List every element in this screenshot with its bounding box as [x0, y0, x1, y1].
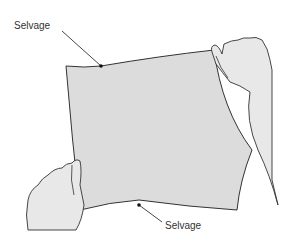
top-selvage-leader: [62, 31, 101, 66]
bottom-selvage-dot: [137, 203, 141, 207]
bottom-selvage-label: Selvage: [165, 220, 201, 231]
left-hand-icon: [27, 160, 85, 230]
selvage-diagram: Selvage Selvage: [0, 0, 305, 246]
top-selvage-dot: [99, 64, 103, 68]
diagram-illustration: [0, 0, 305, 246]
bottom-selvage-leader: [139, 205, 162, 222]
top-selvage-label: Selvage: [14, 20, 50, 31]
